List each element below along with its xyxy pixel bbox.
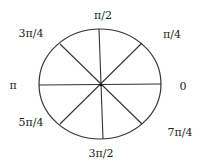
label-5pi-over-4: 5π/4	[19, 116, 44, 129]
label-3pi-over-2: 3π/2	[89, 147, 114, 160]
label-7pi-over-4: 7π/4	[168, 126, 193, 139]
label-pi-over-2: π/2	[94, 9, 112, 22]
label-0: 0	[180, 80, 187, 93]
label-pi-over-4: π/4	[163, 28, 181, 41]
label-pi: π	[9, 79, 16, 92]
unit-circle-diagram: 0 π/4 π/2 3π/4 π 5π/4 3π/2 7π/4	[0, 0, 202, 167]
center-point	[100, 84, 103, 87]
label-3pi-over-4: 3π/4	[19, 27, 44, 40]
